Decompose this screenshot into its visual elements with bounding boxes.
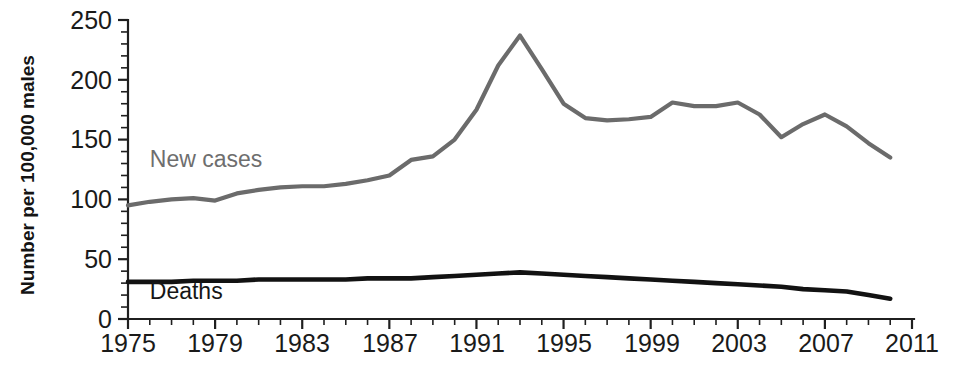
y-tick-label: 250: [70, 6, 112, 34]
x-tick-label: 2011: [885, 329, 939, 357]
x-tick-label: 1975: [100, 329, 156, 357]
series-line-new-cases: [128, 36, 890, 206]
y-tick-label: 50: [84, 245, 112, 273]
x-tick-label: 2007: [798, 329, 854, 357]
x-tick-label: 1995: [536, 329, 592, 357]
x-axis-ticks: [128, 319, 912, 329]
y-axis-tick-labels: 0 50 100 150 200 250: [70, 6, 112, 333]
x-tick-label: 1983: [274, 329, 330, 357]
series-label-deaths: Deaths: [150, 278, 223, 304]
x-tick-label: 1987: [362, 329, 418, 357]
x-axis-tick-labels: 1975 1979 1983 1987 1991 1995 1999 2003 …: [100, 329, 939, 357]
line-chart: Number per 100,000 males: [0, 0, 962, 391]
series-label-new-cases: New cases: [150, 146, 262, 172]
series-line-deaths: [128, 272, 890, 298]
x-tick-label: 1999: [624, 329, 680, 357]
y-tick-label: 200: [70, 66, 112, 94]
y-axis-title: Number per 100,000 males: [17, 55, 38, 295]
x-tick-label: 2003: [711, 329, 767, 357]
y-tick-label: 150: [70, 125, 112, 153]
x-tick-label: 1991: [449, 329, 505, 357]
chart-container: Number per 100,000 males: [0, 0, 962, 391]
y-tick-label: 100: [70, 185, 112, 213]
x-tick-label: 1979: [187, 329, 243, 357]
y-axis-major-ticks: [118, 20, 128, 319]
